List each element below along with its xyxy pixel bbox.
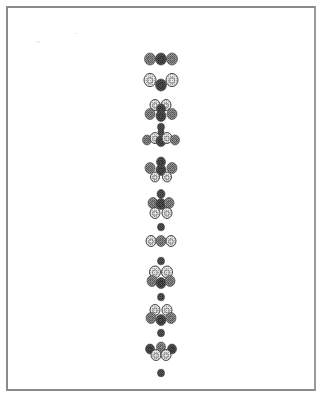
bead-mid <box>167 53 178 65</box>
bead-mid <box>166 313 176 324</box>
cluster-4 <box>143 129 180 147</box>
bead-dark <box>156 278 166 289</box>
bead-dark <box>156 79 167 91</box>
bead-mid <box>145 109 155 120</box>
bead-light <box>166 73 178 86</box>
glyph-figure <box>0 0 323 398</box>
bead-dark <box>158 329 165 337</box>
bead-mid <box>167 109 177 120</box>
bead-light <box>161 350 171 361</box>
bead-light <box>166 236 176 247</box>
bead-light <box>151 350 161 361</box>
bead-light <box>162 208 172 219</box>
bead-mid <box>171 135 180 145</box>
bead-mid <box>164 198 174 209</box>
bead-mid <box>147 276 157 287</box>
cluster-8 <box>147 257 175 288</box>
glyph-clusters <box>143 53 180 377</box>
cluster-1 <box>145 53 178 65</box>
bead-dark <box>158 223 165 231</box>
bead-dark <box>158 293 165 301</box>
bead-dark <box>156 315 166 326</box>
bead-mid <box>156 236 166 247</box>
cluster-10 <box>146 342 177 377</box>
cluster-6 <box>148 190 174 219</box>
cluster-2 <box>144 73 178 91</box>
cluster-7 <box>146 223 176 246</box>
bead-light <box>144 73 156 86</box>
bead-mid <box>145 53 156 65</box>
cluster-3 <box>145 100 177 131</box>
bead-mid <box>165 276 175 287</box>
bead-dark <box>156 53 167 65</box>
bead-mid <box>146 313 156 324</box>
bead-dark <box>158 129 164 136</box>
bead-dark <box>156 111 166 122</box>
bead-dark <box>158 257 165 265</box>
bead-light <box>151 172 160 182</box>
bead-light <box>146 236 156 247</box>
bead-light <box>150 208 160 219</box>
bead-light <box>163 172 172 182</box>
cluster-5 <box>145 157 177 182</box>
bead-dark <box>158 369 165 377</box>
bead-dark <box>157 190 165 199</box>
cluster-9 <box>146 293 176 337</box>
